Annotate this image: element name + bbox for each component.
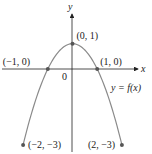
data-point — [46, 67, 50, 71]
point-label: (2, −3) — [88, 139, 115, 151]
data-point — [120, 143, 124, 147]
data-point — [71, 42, 75, 46]
point-label: (0, 1) — [77, 30, 99, 42]
data-point — [95, 67, 99, 71]
y-axis-label: y — [67, 1, 73, 12]
point-label: (−2, −3) — [28, 139, 61, 151]
parabola-graph: x y 0 (−1, 0)(0, 1)(1, 0)(−2, −3)(2, −3)… — [0, 0, 152, 154]
point-label: (1, 0) — [100, 56, 122, 68]
origin-label: 0 — [62, 71, 67, 82]
x-axis-label: x — [140, 63, 146, 74]
curve-label: y = f(x) — [110, 82, 142, 94]
point-label: (−1, 0) — [3, 56, 30, 68]
data-point — [21, 143, 25, 147]
